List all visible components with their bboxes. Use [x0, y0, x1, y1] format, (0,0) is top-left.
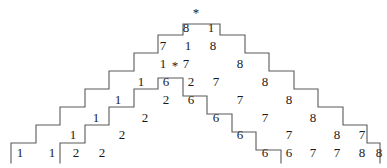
digit-38: 8 [359, 145, 366, 160]
digit-2: 1 [49, 145, 56, 160]
digit-7: 1 [93, 110, 100, 125]
digit-19: 8 [237, 56, 244, 71]
digit-10: 2 [163, 92, 170, 107]
digit-18: 7 [183, 56, 190, 71]
digit-39: 8 [376, 145, 383, 160]
digit-37: 7 [334, 145, 341, 160]
digit-8: 2 [142, 110, 149, 125]
digit-5: 1 [70, 127, 77, 142]
digit-14: 2 [188, 74, 195, 89]
digit-21: 1 [185, 38, 192, 53]
digit-29: 8 [310, 110, 317, 125]
digit-17: 1 [160, 56, 167, 71]
digit-6: 2 [119, 127, 126, 142]
digit-32: 8 [334, 127, 341, 142]
digit-26: 8 [286, 92, 293, 107]
digit-11: 6 [188, 92, 195, 107]
digit-20: 7 [160, 38, 167, 53]
digit-35: 6 [286, 145, 293, 160]
digit-15: 7 [213, 74, 220, 89]
digit-24: 1 [208, 20, 215, 35]
staircase-diagram-canvas: 1 1 2 2 1 2 1 2 1 2 6 1 6 2 7 8 1 7 8 7 … [0, 0, 387, 168]
digit-1: 1 [17, 145, 24, 160]
digit-12: 1 [138, 74, 145, 89]
digit-9: 1 [115, 92, 122, 107]
digit-31: 7 [286, 127, 293, 142]
digit-3: 2 [73, 145, 80, 160]
digit-23: 8 [183, 20, 190, 35]
staircase-digit-figure: 1 1 2 2 1 2 1 2 1 2 6 1 6 2 7 8 1 7 8 7 … [0, 0, 387, 168]
digit-22: 8 [210, 38, 217, 53]
digit-28: 7 [262, 110, 269, 125]
digit-36: 7 [310, 145, 317, 160]
digit-25: 7 [237, 92, 244, 107]
digit-16: 8 [262, 74, 269, 89]
inner-star-icon: * [172, 58, 179, 73]
digit-27: 6 [213, 110, 220, 125]
digit-34: 6 [262, 145, 269, 160]
digit-4: 2 [99, 145, 106, 160]
digit-33: 7 [359, 127, 366, 142]
digit-13: 6 [163, 74, 170, 89]
apex-star-icon: * [193, 5, 200, 20]
digit-30: 6 [237, 127, 244, 142]
